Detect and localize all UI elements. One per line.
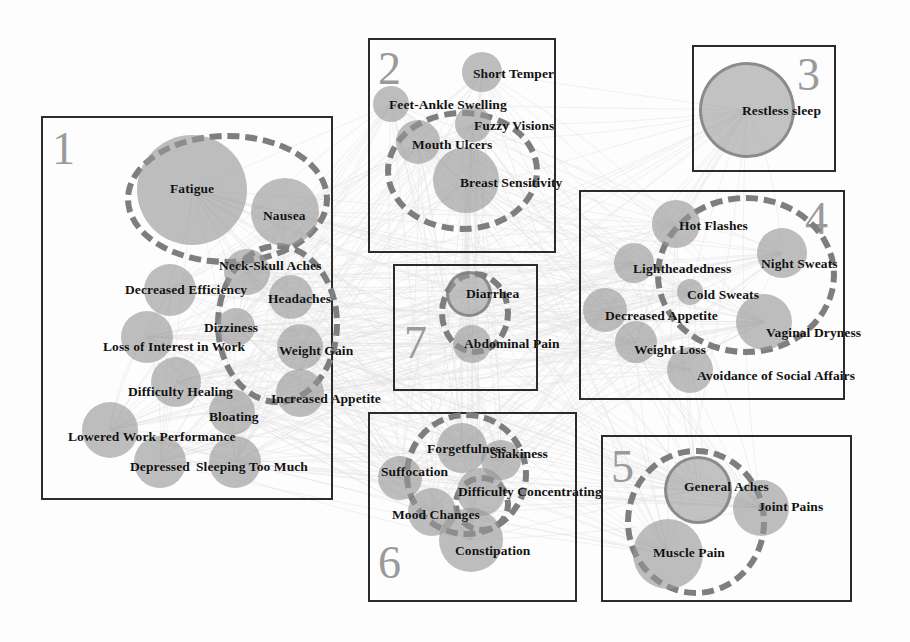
symptom-node-label: Joint Pains xyxy=(758,499,823,515)
cluster-number-7: 7 xyxy=(404,320,427,366)
symptom-node-label: Weight Loss xyxy=(634,342,706,358)
symptom-node-label: Constipation xyxy=(455,543,530,559)
symptom-node-label: Loss of Interest in Work xyxy=(103,339,245,355)
symptom-node-label: Headaches xyxy=(268,291,331,307)
symptom-node-label: Difficulty Healing xyxy=(128,384,233,400)
symptom-node-label: Decreased Efficiency xyxy=(125,282,247,298)
symptom-node-label: Lightheadedness xyxy=(633,261,731,277)
symptom-node-label: Suffocation xyxy=(381,464,448,480)
symptom-node-label: Neck-Skull Aches xyxy=(219,258,322,274)
symptom-node-label: Night Sweats xyxy=(761,256,838,272)
symptom-node-label: Shakiness xyxy=(490,446,548,462)
symptom-node-label: Abdominal Pain xyxy=(464,336,560,352)
symptom-node-label: Cold Sweats xyxy=(687,287,759,303)
symptom-node-label: Decreased Appetite xyxy=(605,308,718,324)
symptom-node-label: Restless sleep xyxy=(742,103,821,119)
symptom-node-label: Diarrhea xyxy=(466,286,519,302)
cluster-number-1: 1 xyxy=(52,126,75,172)
symptom-node-label: Mood Changes xyxy=(392,507,480,523)
symptom-node-label: Nausea xyxy=(263,208,306,224)
symptom-node-label: Lowered Work Performance xyxy=(68,429,236,445)
symptom-node-label: Weight Gain xyxy=(279,343,353,359)
symptom-node-label: Avoidance of Social Affairs xyxy=(697,368,855,384)
cluster-number-3: 3 xyxy=(797,52,820,98)
symptom-node-label: Increased Appetite xyxy=(271,391,381,407)
symptom-node-label: General Aches xyxy=(684,479,769,495)
symptom-node-label: Bloating xyxy=(209,409,259,425)
symptom-node-label: Feet-Ankle Swelling xyxy=(389,97,507,113)
symptom-node-label: Mouth Ulcers xyxy=(412,137,492,153)
network-diagram-canvas: 1234567FatigueNauseaNeck-Skull AchesDecr… xyxy=(0,0,910,642)
symptom-node-label: Fatigue xyxy=(170,181,214,197)
symptom-node-label: Hot Flashes xyxy=(679,218,748,234)
symptom-node-label: Depressed xyxy=(130,459,190,475)
symptom-node-label: Dizziness xyxy=(204,320,258,336)
symptom-node-label: Short Temper xyxy=(473,66,554,82)
symptom-node-label: Vaginal Dryness xyxy=(766,325,861,341)
cluster-number-5: 5 xyxy=(611,444,634,490)
symptom-node-label: Fuzzy Visions xyxy=(474,118,554,134)
symptom-node[interactable] xyxy=(121,311,173,363)
cluster-number-6: 6 xyxy=(378,540,401,586)
symptom-node-label: Difficulty Concentrating xyxy=(458,484,602,500)
symptom-node-label: Breast Sensitivity xyxy=(460,175,562,191)
symptom-node-label: Sleeping Too Much xyxy=(196,459,308,475)
symptom-node-label: Muscle Pain xyxy=(653,545,725,561)
